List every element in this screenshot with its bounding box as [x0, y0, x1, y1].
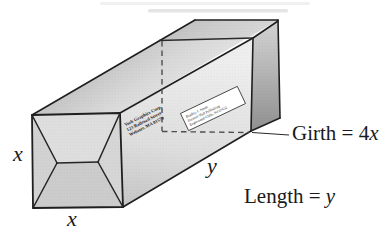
length-label-y: y — [205, 153, 217, 178]
girth-leader-line — [252, 133, 289, 136]
parcel-girth-diagram: York Graphics Corp. 123 Railroad Street … — [0, 0, 382, 228]
girth-annotation-prefix: Girth = 4 — [292, 121, 370, 145]
diagram-canvas: York Graphics Corp. 123 Railroad Street … — [0, 0, 382, 228]
box-end-face — [32, 113, 123, 208]
length-annotation-prefix: Length = — [244, 184, 326, 208]
height-label-x: x — [12, 141, 23, 166]
girth-annotation: Girth = 4x — [292, 121, 379, 145]
width-label-x: x — [66, 206, 77, 228]
length-annotation: Length = y — [244, 184, 336, 208]
length-annotation-variable: y — [324, 184, 336, 208]
cropped-text-artifact — [100, 2, 310, 13]
box-right-end-cap — [251, 21, 280, 131]
girth-annotation-variable: x — [368, 121, 379, 145]
